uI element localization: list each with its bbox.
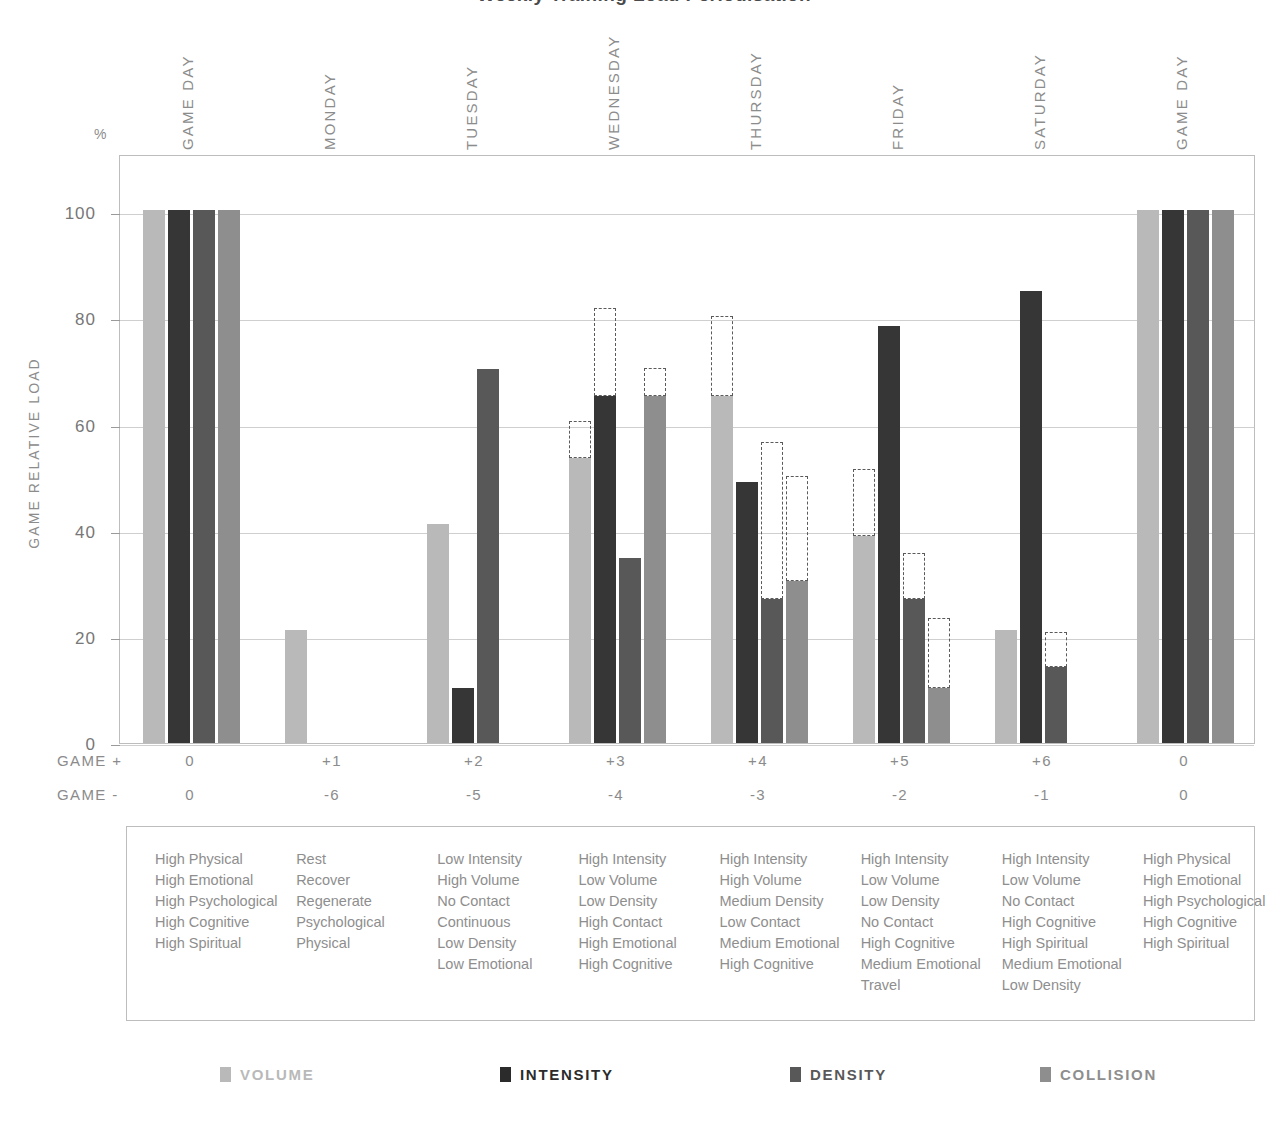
bar-intensity <box>594 396 616 743</box>
descriptor-line: Low Volume <box>861 870 986 891</box>
descriptor-column-tuesday-2: Low IntensityHigh VolumeNo ContactContin… <box>437 849 562 975</box>
descriptor-line: Low Volume <box>1002 870 1127 891</box>
y-tick-label-40: 40 <box>36 523 96 543</box>
bar-volume <box>427 524 449 743</box>
bar-intensity <box>1020 291 1042 743</box>
descriptor-column-monday-1: RestRecoverRegeneratePsychologicalPhysic… <box>296 849 421 954</box>
bar-group <box>1137 156 1234 743</box>
y-tick-mark-100 <box>111 214 120 215</box>
game-plus-cell-1: +1 <box>282 752 382 769</box>
descriptor-line: High Physical <box>1143 849 1268 870</box>
descriptor-line: High Psychological <box>155 891 280 912</box>
bar-density <box>903 599 925 743</box>
day-label-4: THURSDAY <box>747 51 764 150</box>
day-label-6: SATURDAY <box>1031 53 1048 150</box>
descriptor-line: High Cognitive <box>861 933 986 954</box>
game-plus-cell-3: +3 <box>566 752 666 769</box>
day-label-7: GAME DAY <box>1173 54 1190 150</box>
descriptor-column-game-day-7: High PhysicalHigh EmotionalHigh Psycholo… <box>1143 849 1268 954</box>
bar-target-outline-density <box>761 442 783 599</box>
game-plus-cell-4: +4 <box>708 752 808 769</box>
descriptor-line: High Emotional <box>1143 870 1268 891</box>
descriptor-line: High Volume <box>437 870 562 891</box>
descriptor-line: High Spiritual <box>1143 933 1268 954</box>
bar-volume <box>285 630 307 743</box>
descriptor-line: Low Intensity <box>437 849 562 870</box>
descriptor-line: High Intensity <box>578 849 703 870</box>
descriptor-line: Medium Emotional <box>1002 954 1127 975</box>
bar-collision <box>928 688 950 743</box>
bar-group <box>711 156 808 743</box>
bar-density <box>193 210 215 743</box>
descriptor-line: Travel <box>861 975 986 996</box>
game-minus-cell-7: 0 <box>1134 786 1234 803</box>
descriptor-line: Regenerate <box>296 891 421 912</box>
descriptor-column-saturday-6: High IntensityLow VolumeNo ContactHigh C… <box>1002 849 1127 996</box>
descriptor-line: No Contact <box>1002 891 1127 912</box>
legend-swatch-collision-icon <box>1040 1067 1051 1082</box>
descriptor-line: No Contact <box>861 912 986 933</box>
bar-target-outline-collision <box>644 368 666 396</box>
bar-target-outline-volume <box>853 469 875 536</box>
y-tick-label-20: 20 <box>36 629 96 649</box>
y-tick-label-80: 80 <box>36 310 96 330</box>
day-label-row: GAME DAYMONDAYTUESDAYWEDNESDAYTHURSDAYFR… <box>119 20 1255 150</box>
day-label-2: TUESDAY <box>463 65 480 150</box>
bar-target-outline-collision <box>928 618 950 688</box>
legend-swatch-volume-icon <box>220 1067 231 1082</box>
descriptor-box: High PhysicalHigh EmotionalHigh Psycholo… <box>126 826 1255 1021</box>
descriptor-line: Medium Density <box>720 891 845 912</box>
bar-volume <box>853 536 875 743</box>
bar-volume <box>1137 210 1159 743</box>
legend-item-density[interactable]: DENSITY <box>790 1066 887 1083</box>
descriptor-line: High Cognitive <box>1143 912 1268 933</box>
x-axis-row-game-minus: GAME - 0-6-5-4-3-2-10 <box>0 786 1288 812</box>
descriptor-line: Rest <box>296 849 421 870</box>
chart-title: Weekly Training Load Periodisation <box>0 0 1288 6</box>
y-tick-mark-60 <box>111 427 120 428</box>
legend-item-volume[interactable]: VOLUME <box>220 1066 314 1083</box>
game-minus-cell-4: -3 <box>708 786 808 803</box>
game-minus-cell-5: -2 <box>850 786 950 803</box>
descriptor-line: High Emotional <box>155 870 280 891</box>
bar-volume <box>143 210 165 743</box>
descriptor-line: High Intensity <box>861 849 986 870</box>
descriptor-column-wednesday-3: High IntensityLow VolumeLow DensityHigh … <box>578 849 703 975</box>
bar-density <box>761 599 783 743</box>
bar-volume <box>995 630 1017 743</box>
bar-intensity <box>452 688 474 743</box>
descriptor-line: High Emotional <box>578 933 703 954</box>
day-label-5: FRIDAY <box>889 83 906 150</box>
legend-swatch-density-icon <box>790 1067 801 1082</box>
bar-volume <box>569 458 591 743</box>
descriptor-line: High Cognitive <box>720 954 845 975</box>
x-axis-row-label-plus: GAME + <box>57 752 123 769</box>
y-tick-label-60: 60 <box>36 417 96 437</box>
bar-density <box>1045 667 1067 743</box>
y-tick-mark-80 <box>111 320 120 321</box>
game-minus-cell-6: -1 <box>992 786 1092 803</box>
descriptor-line: Continuous <box>437 912 562 933</box>
legend-item-intensity[interactable]: INTENSITY <box>500 1066 614 1083</box>
game-plus-cell-0: 0 <box>140 752 240 769</box>
descriptor-line: Low Emotional <box>437 954 562 975</box>
legend-label: COLLISION <box>1060 1066 1157 1083</box>
bar-volume <box>711 396 733 743</box>
bar-group <box>427 156 524 743</box>
y-tick-mark-20 <box>111 639 120 640</box>
y-tick-mark-40 <box>111 533 120 534</box>
game-minus-cell-0: 0 <box>140 786 240 803</box>
legend-item-collision[interactable]: COLLISION <box>1040 1066 1157 1083</box>
descriptor-line: High Psychological <box>1143 891 1268 912</box>
game-plus-cell-2: +2 <box>424 752 524 769</box>
descriptor-line: High Cognitive <box>155 912 280 933</box>
bar-group <box>853 156 950 743</box>
bar-group <box>569 156 666 743</box>
x-axis-row-game-plus: GAME + 0+1+2+3+4+5+60 <box>0 752 1288 778</box>
y-tick-label-100: 100 <box>36 204 96 224</box>
bar-collision <box>1212 210 1234 743</box>
chart-legend: VOLUMEINTENSITYDENSITYCOLLISION <box>0 1066 1288 1096</box>
bar-intensity <box>878 326 900 743</box>
bar-intensity <box>168 210 190 743</box>
descriptor-line: Psychological <box>296 912 421 933</box>
